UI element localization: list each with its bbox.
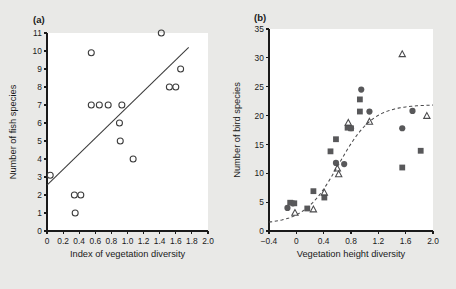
- x-tick-label: 0.8: [345, 236, 357, 246]
- y-tick-label: 5: [259, 197, 264, 207]
- x-tick-label: 1.2: [138, 236, 150, 246]
- y-tick-label: 1: [37, 208, 42, 218]
- y-tick-label: 5: [37, 136, 42, 146]
- data-point-filled-square: [418, 148, 424, 154]
- panel-b-svg: (b)05101520253035−0.400.40.81.21.62.0Veg…: [228, 0, 456, 289]
- y-tick-label: 11: [33, 28, 42, 38]
- data-point-filled-square: [348, 125, 354, 131]
- x-tick-label: 1.6: [400, 236, 412, 246]
- x-tick-label: 0.4: [318, 236, 330, 246]
- x-tick-label: 1.4: [154, 236, 166, 246]
- data-point-filled-square: [399, 165, 405, 171]
- y-tick-label: 20: [254, 111, 264, 121]
- y-tick-label: 2: [37, 190, 42, 200]
- panel-label: (a): [33, 14, 45, 25]
- y-axis-title: Number of fish species: [8, 84, 18, 179]
- x-tick-label: 0.2: [57, 236, 69, 246]
- x-tick-label: 1.6: [170, 236, 182, 246]
- y-tick-label: 10: [32, 46, 42, 56]
- y-tick-label: 25: [254, 82, 264, 92]
- figure-container: (a)0123456789101100.20.40.60.81.01.21.41…: [0, 0, 456, 289]
- data-point-filled-circle: [341, 161, 347, 167]
- x-tick-label: 2.0: [427, 236, 439, 246]
- data-point-filled-square: [311, 188, 317, 194]
- x-tick-label: 0: [45, 236, 50, 246]
- y-tick-label: 8: [37, 82, 42, 92]
- panel-a-plot-area: [47, 33, 208, 231]
- x-tick-label: 2.0: [202, 236, 214, 246]
- x-tick-label: 0.4: [73, 236, 85, 246]
- y-tick-label: 35: [254, 24, 264, 34]
- data-point-filled-square: [304, 206, 310, 212]
- y-tick-label: 10: [254, 168, 264, 178]
- y-tick-label: 4: [37, 154, 42, 164]
- x-tick-label: 0.8: [106, 236, 118, 246]
- x-tick-label: 1.0: [122, 236, 134, 246]
- data-point-filled-square: [328, 148, 334, 154]
- y-tick-label: 6: [37, 118, 42, 128]
- x-axis-title: Index of vegetation diversity: [70, 249, 186, 259]
- data-point-filled-circle: [409, 108, 415, 114]
- y-tick-label: 7: [37, 100, 42, 110]
- x-tick-label: 0.6: [89, 236, 101, 246]
- y-tick-label: 9: [37, 64, 42, 74]
- x-tick-label: −0.4: [261, 236, 278, 246]
- data-point-filled-square: [291, 200, 297, 206]
- y-tick-label: 3: [37, 172, 42, 182]
- data-point-filled-circle: [284, 205, 290, 211]
- x-tick-label: 0: [294, 236, 299, 246]
- panel-label: (b): [254, 12, 266, 23]
- panel-a-svg: (a)0123456789101100.20.40.60.81.01.21.41…: [0, 0, 228, 289]
- y-tick-label: 0: [259, 226, 264, 236]
- y-axis-title: Number of bird species: [232, 82, 242, 178]
- data-point-filled-circle: [333, 160, 339, 166]
- data-point-filled-circle: [358, 87, 364, 93]
- data-point-filled-circle: [399, 125, 405, 131]
- data-point-filled-square: [357, 97, 363, 103]
- y-tick-label: 0: [37, 226, 42, 236]
- panel-b-scatter-bird-species: (b)05101520253035−0.400.40.81.21.62.0Veg…: [228, 0, 456, 289]
- x-tick-label: 1.2: [373, 236, 385, 246]
- data-point-filled-square: [357, 109, 363, 115]
- x-axis-title: Vegetation height diversity: [297, 249, 406, 259]
- y-tick-label: 30: [254, 53, 264, 63]
- data-point-filled-circle: [366, 108, 372, 114]
- y-tick-label: 15: [254, 140, 264, 150]
- panel-a-scatter-fish-species: (a)0123456789101100.20.40.60.81.01.21.41…: [0, 0, 228, 289]
- x-tick-label: 1.8: [186, 236, 198, 246]
- data-point-filled-square: [333, 136, 339, 142]
